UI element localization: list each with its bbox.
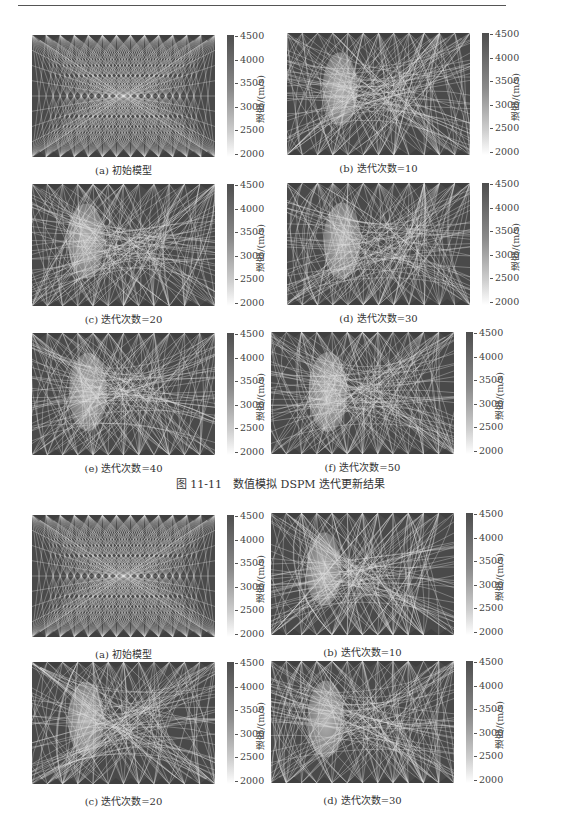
colorbar xyxy=(482,183,489,305)
colorbar xyxy=(227,662,234,784)
velocity-model-image xyxy=(32,662,215,784)
velocity-model-image xyxy=(271,332,454,454)
colorbar-tick: 2500 xyxy=(235,423,264,433)
colorbar-tick: 4500 xyxy=(235,180,264,190)
colorbar xyxy=(466,661,473,783)
colorbar-tick: 2000 xyxy=(235,776,264,786)
colorbar-tick: 4000 xyxy=(474,681,503,691)
colorbar-tick: 4000 xyxy=(235,353,264,363)
colorbar-tick: 2000 xyxy=(474,627,503,637)
colorbar-tick: 4500 xyxy=(235,658,264,668)
colorbar-tick: 4000 xyxy=(474,533,503,543)
colorbar-tick: 4000 xyxy=(235,682,264,692)
colorbar xyxy=(227,515,234,637)
colorbar-label: 速度/(m/s) xyxy=(493,372,507,420)
colorbar-tick: 2500 xyxy=(474,603,503,613)
colorbar xyxy=(482,33,489,155)
colorbar-label: 速度/(m/s) xyxy=(254,75,268,123)
colorbar-tick: 4500 xyxy=(474,657,503,667)
colorbar-label: 速度/(m/s) xyxy=(509,223,523,271)
colorbar-tick: 2500 xyxy=(474,422,503,432)
page-header-rule xyxy=(18,5,506,6)
colorbar-tick: 4500 xyxy=(235,511,264,521)
colorbar-tick: 2000 xyxy=(235,447,264,457)
velocity-model-image xyxy=(271,661,454,783)
colorbar-label: 速度/(m/s) xyxy=(493,553,507,601)
subfigure-caption: (c) 迭代次数=20 xyxy=(32,311,215,326)
subfigure-caption: (c) 迭代次数=20 xyxy=(32,793,215,808)
figure-caption: 图 11-11 数值模拟 DSPM 迭代更新结果 xyxy=(0,475,561,491)
colorbar-tick: 4000 xyxy=(490,53,519,63)
colorbar-tick: 2500 xyxy=(490,273,519,283)
velocity-model-image xyxy=(32,333,215,455)
colorbar-tick: 2500 xyxy=(490,123,519,133)
colorbar-tick: 2000 xyxy=(474,775,503,785)
colorbar-tick: 2000 xyxy=(235,149,264,159)
colorbar xyxy=(466,513,473,635)
velocity-model-image xyxy=(32,515,215,637)
colorbar-tick: 4500 xyxy=(490,179,519,189)
colorbar-tick: 4500 xyxy=(235,329,264,339)
colorbar-tick: 2500 xyxy=(235,125,264,135)
colorbar xyxy=(466,332,473,454)
subfigure-caption: (a) 初始模型 xyxy=(32,162,215,177)
colorbar xyxy=(227,184,234,306)
colorbar-tick: 2000 xyxy=(490,297,519,307)
colorbar-tick: 4000 xyxy=(235,55,264,65)
colorbar-tick: 2500 xyxy=(235,752,264,762)
velocity-model-image xyxy=(287,33,470,155)
colorbar-tick: 4500 xyxy=(235,31,264,41)
subfigure-caption: (d) 迭代次数=30 xyxy=(287,310,470,325)
colorbar-label: 速度/(m/s) xyxy=(254,555,268,603)
subfigure-caption: (a) 初始模型 xyxy=(32,646,215,661)
subfigure-caption: (b) 迭代次数=10 xyxy=(271,644,454,659)
colorbar-tick: 4000 xyxy=(235,535,264,545)
colorbar-label: 速度/(m/s) xyxy=(254,702,268,750)
colorbar-tick: 4500 xyxy=(474,509,503,519)
colorbar-tick: 4500 xyxy=(474,328,503,338)
subfigure-caption: (d) 迭代次数=30 xyxy=(271,792,454,807)
colorbar-label: 速度/(m/s) xyxy=(254,373,268,421)
colorbar-tick: 2000 xyxy=(474,446,503,456)
colorbar-tick: 4000 xyxy=(490,203,519,213)
velocity-model-image xyxy=(287,183,470,305)
colorbar-tick: 4000 xyxy=(474,352,503,362)
velocity-model-image xyxy=(32,35,215,157)
velocity-model-image xyxy=(271,513,454,635)
colorbar-tick: 2500 xyxy=(474,751,503,761)
colorbar xyxy=(227,333,234,455)
colorbar-label: 速度/(m/s) xyxy=(493,701,507,749)
colorbar-label: 速度/(m/s) xyxy=(254,224,268,272)
colorbar-tick: 2500 xyxy=(235,605,264,615)
colorbar-tick: 4500 xyxy=(490,29,519,39)
colorbar-tick: 4000 xyxy=(235,204,264,214)
velocity-model-image xyxy=(32,184,215,306)
colorbar-tick: 2000 xyxy=(235,629,264,639)
colorbar-tick: 2000 xyxy=(235,298,264,308)
subfigure-caption: (b) 迭代次数=10 xyxy=(287,160,470,175)
colorbar-label: 速度/(m/s) xyxy=(509,73,523,121)
subfigure-caption: (e) 迭代次数=40 xyxy=(32,460,215,475)
subfigure-caption: (f) 迭代次数=50 xyxy=(271,459,454,474)
colorbar-tick: 2000 xyxy=(490,147,519,157)
colorbar-tick: 2500 xyxy=(235,274,264,284)
colorbar xyxy=(227,35,234,157)
